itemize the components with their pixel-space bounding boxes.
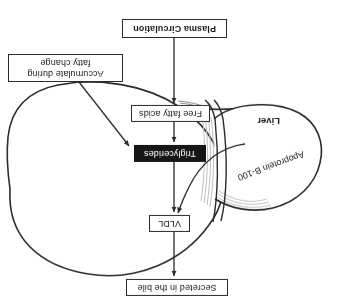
liver-metabolism-figure: Secreted in the bile VLDL Triglycerides … <box>0 0 341 307</box>
fatty-change-line-1: Accumulate during <box>27 69 103 79</box>
box-free-fatty-acids[interactable]: Free fatty acids <box>131 105 210 122</box>
box-secreted-in-bile[interactable]: Secreted in the bile <box>126 279 228 296</box>
box-plasma-circulation[interactable]: Plasma Circulation <box>122 19 227 38</box>
fatty-change-line-2: fatty change <box>40 59 90 69</box>
box-accumulate-fatty-change[interactable]: Accumulate during fatty change <box>8 55 123 83</box>
box-triglycerides[interactable]: Triglycerides <box>134 145 206 162</box>
box-vldl[interactable]: VLDL <box>149 215 190 232</box>
label-liver: Liver <box>257 116 280 126</box>
diagram-scene: Secreted in the bile VLDL Triglycerides … <box>0 0 341 307</box>
